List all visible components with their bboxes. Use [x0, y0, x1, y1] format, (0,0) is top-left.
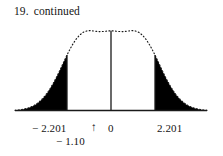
right-rejection-region-fill	[155, 55, 207, 111]
figure-container: 19.continued − 2.201 ↑ 0 2.201 − 1.10	[0, 0, 223, 156]
tick-label-lower-critical: − 2.201	[32, 122, 66, 134]
tick-label-observed-statistic: − 1.10	[56, 135, 85, 147]
figure-heading: 19.continued	[14, 5, 80, 17]
normal-curve-svg	[0, 22, 223, 117]
tick-label-center: 0	[108, 122, 114, 134]
observed-statistic-arrow-icon: ↑	[91, 121, 97, 133]
figure-heading-text: continued	[34, 5, 80, 17]
normal-curve-plot	[0, 22, 223, 117]
axis-label-row: − 2.201 ↑ 0 2.201 − 1.10	[0, 118, 223, 156]
left-rejection-region-fill	[15, 55, 67, 111]
figure-number: 19.	[14, 5, 29, 17]
tick-label-upper-critical: 2.201	[157, 122, 182, 134]
